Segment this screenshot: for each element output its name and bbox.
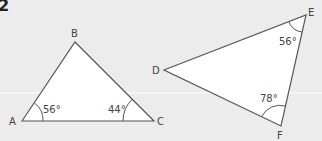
- triangles-diagram: 56° 44° A B C 56° 78° D E F: [0, 0, 322, 141]
- vertex-label-a: A: [9, 116, 16, 127]
- angle-label-e: 56°: [279, 36, 297, 47]
- vertex-label-c: C: [157, 116, 164, 127]
- vertex-label-e: E: [308, 7, 314, 18]
- vertex-label-b: B: [71, 28, 78, 39]
- angle-label-a: 56°: [43, 104, 61, 115]
- angle-label-c: 44°: [108, 104, 126, 115]
- triangle-def: 56° 78° D E F: [152, 7, 314, 141]
- vertex-label-f: F: [277, 130, 283, 141]
- angle-label-f: 78°: [260, 93, 278, 104]
- vertex-label-d: D: [152, 65, 160, 76]
- triangle-abc: 56° 44° A B C: [9, 28, 164, 127]
